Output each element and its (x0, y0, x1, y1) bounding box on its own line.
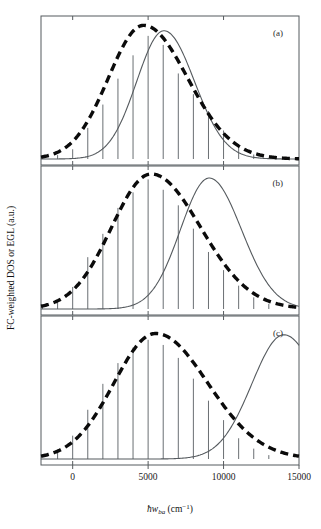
egl-curve (41, 335, 299, 459)
dos-sticks (58, 340, 269, 459)
x-tick-label: 5000 (139, 472, 158, 482)
egl-curve (41, 178, 299, 309)
panel-label: (a) (273, 28, 283, 38)
dos-sticks (43, 36, 254, 159)
x-tick-label: 15000 (287, 472, 311, 482)
dos-envelope (41, 333, 299, 456)
x-axis-title-units: (cm (165, 504, 183, 515)
panel-b: (b) (41, 166, 299, 315)
chart-svg: FC-weighted DOS or EGL (a.u.) (a)(b)(c) … (0, 0, 321, 529)
panel-a: (a) (41, 16, 299, 165)
x-axis-title: ħwba (cm−1) (147, 503, 193, 516)
panel-frame (41, 16, 299, 165)
panel-frame (41, 166, 299, 315)
x-tick-label: 10000 (212, 472, 236, 482)
x-axis-title-symbol: ħw (147, 504, 159, 514)
x-tick-label: 0 (70, 472, 75, 482)
x-axis-ticks: 050001000015000 (70, 465, 311, 482)
panel-label: (b) (273, 178, 284, 188)
x-axis-title-paren: ) (190, 504, 193, 515)
y-axis-title: FC-weighted DOS or EGL (a.u.) (6, 206, 17, 330)
dos-sticks (43, 179, 269, 309)
dos-envelope (41, 174, 299, 307)
figure-container: FC-weighted DOS or EGL (a.u.) (a)(b)(c) … (0, 0, 321, 529)
panel-c: (c) (41, 316, 299, 465)
dos-envelope (41, 25, 299, 158)
panel-label: (c) (273, 328, 283, 338)
panels-group: (a)(b)(c) (41, 16, 299, 465)
